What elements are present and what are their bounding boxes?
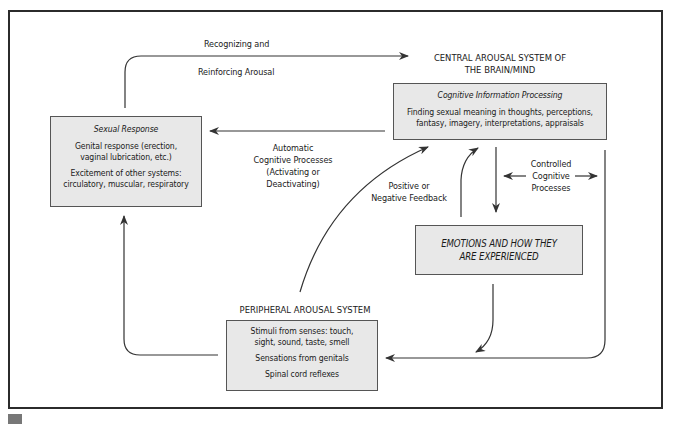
emotions-text: EMOTIONS AND HOW THEY ARE EXPERIENCED <box>416 237 582 263</box>
figure-marker <box>8 414 22 424</box>
label-reinforcing: Reinforcing Arousal <box>198 66 274 78</box>
label-automatic-cognitive: Automatic Cognitive Processes (Activatin… <box>245 142 341 190</box>
automatic-line-3: (Activating or <box>245 166 341 178</box>
peripheral-heading: PERIPHERAL AROUSAL SYSTEM <box>230 304 380 316</box>
central-heading-line-2: THE BRAIN/MIND <box>430 64 570 76</box>
excitement-text: Excitement of other systems: circulatory… <box>51 168 201 190</box>
senses-text: Stimuli from senses: touch, sight, sound… <box>227 326 377 348</box>
spinal-reflexes-text: Spinal cord reflexes <box>227 369 377 380</box>
sexual-response-box: Sexual Response Genital response (erecti… <box>50 116 202 207</box>
label-controlled: Controlled Cognitive Processes <box>528 158 574 194</box>
genital-sensations-text: Sensations from genitals <box>227 353 377 364</box>
controlled-line-3: Processes <box>528 182 574 194</box>
label-feedback: Positive or Negative Feedback <box>366 180 452 204</box>
sexual-response-title: Sexual Response <box>51 124 201 135</box>
cognitive-processing-box: Cognitive Information Processing Finding… <box>393 83 607 140</box>
automatic-line-1: Automatic <box>245 142 341 154</box>
automatic-line-2: Cognitive Processes <box>245 154 341 166</box>
emotions-box: EMOTIONS AND HOW THEY ARE EXPERIENCED <box>415 225 583 275</box>
automatic-line-4: Deactivating) <box>245 178 341 190</box>
label-recognizing: Recognizing and <box>204 38 269 50</box>
central-heading: CENTRAL AROUSAL SYSTEM OF THE BRAIN/MIND <box>430 52 570 76</box>
cognitive-processing-title: Cognitive Information Processing <box>394 90 606 101</box>
central-heading-line-1: CENTRAL AROUSAL SYSTEM OF <box>430 52 570 64</box>
feedback-line-2: Negative Feedback <box>366 192 452 204</box>
genital-response-text: Genital response (erection, vaginal lubr… <box>51 141 201 163</box>
peripheral-arousal-box: Stimuli from senses: touch, sight, sound… <box>226 320 378 391</box>
cognitive-processing-text: Finding sexual meaning in thoughts, perc… <box>394 107 606 129</box>
feedback-line-1: Positive or <box>366 180 452 192</box>
controlled-line-1: Controlled <box>528 158 574 170</box>
controlled-line-2: Cognitive <box>528 170 574 182</box>
